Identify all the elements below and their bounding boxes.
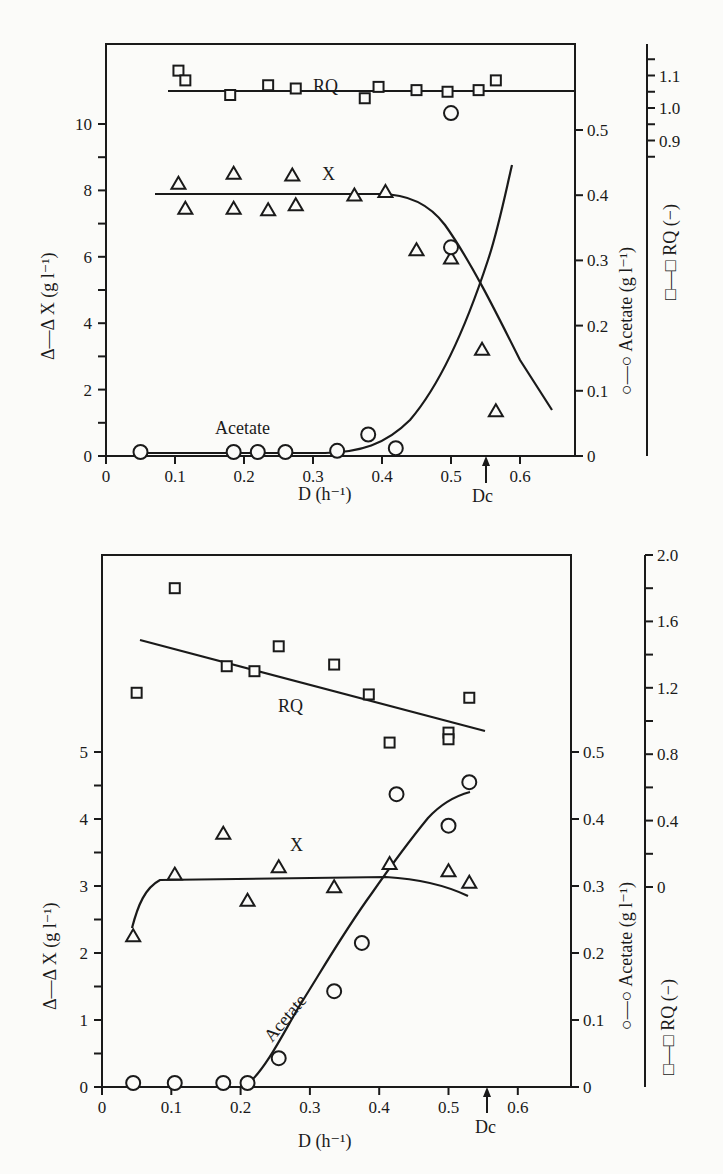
- x-triangle-marker: [489, 404, 503, 416]
- x-triangle-marker: [168, 868, 182, 880]
- acetate-fit-curve: [140, 165, 512, 453]
- rq-square-marker: [274, 641, 284, 651]
- rq-tick-label: 1.2: [657, 679, 678, 698]
- x-triangle-marker: [285, 168, 299, 180]
- x-fit-curve: [155, 194, 552, 410]
- rq-tick-label: 0.9: [659, 132, 680, 151]
- rq-square-marker: [385, 738, 395, 748]
- x-triangle-marker: [241, 894, 255, 906]
- top-axis-ticks: 00.10.20.30.40.50.6024681000.10.20.30.40…: [75, 59, 680, 486]
- x-triangle-marker: [410, 243, 424, 255]
- rq-square-marker: [291, 84, 301, 94]
- top-fit-curves: [140, 91, 575, 453]
- acetate-circle-marker: [330, 444, 344, 458]
- x-triangle-marker: [178, 202, 192, 214]
- y-tick-label: 4: [84, 314, 93, 333]
- x-triangle-marker: [227, 167, 241, 179]
- x-tick-label: 0: [102, 467, 111, 486]
- x-triangle-marker: [475, 343, 489, 355]
- annotation-acetate: Acetate: [215, 418, 270, 438]
- rq-square-marker: [491, 75, 501, 85]
- acetate-tick-label: 0: [587, 447, 596, 466]
- acetate-circle-marker: [278, 445, 292, 459]
- x-tick-label: 0.5: [440, 467, 461, 486]
- acetate-tick-label: 0.2: [583, 944, 604, 963]
- bottom-chart: 00.10.20.30.40.50.601234500.10.20.30.40.…: [40, 546, 679, 1152]
- rq-square-marker: [263, 80, 273, 90]
- y-tick-label: 8: [84, 181, 93, 200]
- rq-square-marker: [412, 85, 422, 95]
- acetate-tick-label: 0.2: [587, 317, 608, 336]
- rq-fit-line: [140, 640, 485, 731]
- annotation-rq: RQ: [313, 76, 338, 96]
- acetate-circle-marker: [134, 445, 148, 459]
- acetate-tick-label: 0.3: [583, 877, 604, 896]
- bottom-axis-ticks: 00.10.20.30.40.50.601234500.10.20.30.40.…: [80, 546, 679, 1117]
- x-triangle-marker: [462, 876, 476, 888]
- top-acetate-axis-title: ○—○ Acetate (g l⁻¹): [616, 247, 637, 395]
- rq-tick-label: 1.6: [657, 612, 678, 631]
- annotation-x: X: [290, 835, 303, 855]
- rq-tick-label: 1.1: [659, 67, 680, 86]
- x-tick-label: 0.4: [371, 467, 393, 486]
- acetate-circle-marker: [390, 787, 404, 801]
- rq-tick-label: 0.4: [657, 812, 679, 831]
- x-triangle-marker: [289, 198, 303, 210]
- acetate-tick-label: 0.3: [587, 251, 608, 270]
- acetate-circle-marker: [126, 1076, 140, 1090]
- rq-square-marker: [360, 93, 370, 103]
- x-tick-label: 0.4: [369, 1098, 391, 1117]
- rq-square-marker: [444, 734, 454, 744]
- rq-tick-label: 0.8: [657, 745, 678, 764]
- top-data-points: [134, 66, 503, 459]
- bottom-fit-curves: [132, 640, 485, 1082]
- acetate-circle-marker: [251, 445, 265, 459]
- x-tick-label: 0.2: [233, 467, 254, 486]
- top-left-axis-title: Δ—Δ X (g l⁻¹): [38, 252, 59, 360]
- rq-square-marker: [173, 66, 183, 76]
- y-tick-label: 0: [84, 447, 93, 466]
- y-tick-label: 1: [80, 1011, 89, 1030]
- dc-arrowhead-icon: [482, 456, 490, 466]
- acetate-circle-marker: [227, 445, 241, 459]
- x-triangle-marker: [327, 880, 341, 892]
- acetate-circle-marker: [444, 240, 458, 254]
- bottom-x-axis-title: D (h⁻¹): [298, 1131, 351, 1152]
- y-tick-label: 10: [75, 115, 92, 134]
- annotation-x: X: [322, 164, 335, 184]
- annotation-acetate: Acetate: [260, 991, 311, 1046]
- acetate-circle-marker: [444, 106, 458, 120]
- rq-square-marker: [249, 666, 259, 676]
- acetate-circle-marker: [168, 1076, 182, 1090]
- acetate-circle-marker: [272, 1051, 286, 1065]
- x-tick-label: 0.6: [509, 467, 530, 486]
- rq-square-marker: [329, 660, 339, 670]
- x-triangle-marker: [442, 864, 456, 876]
- acetate-tick-label: 0.1: [587, 382, 608, 401]
- x-fit-curve: [132, 877, 468, 928]
- x-tick-label: 0.6: [507, 1098, 528, 1117]
- x-triangle-marker: [378, 185, 392, 197]
- dc-label: Dc: [475, 1117, 496, 1137]
- top-rq-axis-title: □—□ RQ (−): [660, 204, 681, 300]
- bottom-acetate-axis-title: ○—○ Acetate (g l⁻¹): [616, 882, 637, 1030]
- x-tick-label: 0.3: [299, 1098, 320, 1117]
- x-triangle-marker: [126, 929, 140, 941]
- rq-square-marker: [443, 87, 453, 97]
- dc-arrowhead-icon: [483, 1087, 491, 1097]
- top-plot-frame: [106, 44, 575, 456]
- acetate-tick-label: 0.1: [583, 1011, 604, 1030]
- y-tick-label: 5: [80, 743, 89, 762]
- acetate-tick-label: 0.4: [587, 186, 609, 205]
- x-tick-label: 0: [98, 1098, 107, 1117]
- rq-square-marker: [374, 82, 384, 92]
- rq-square-marker: [364, 689, 374, 699]
- x-triangle-marker: [272, 860, 286, 872]
- x-triangle-marker: [171, 177, 185, 189]
- y-tick-label: 6: [84, 248, 93, 267]
- acetate-tick-label: 0: [583, 1078, 592, 1097]
- y-tick-label: 2: [84, 381, 93, 400]
- x-tick-label: 0.2: [230, 1098, 251, 1117]
- x-triangle-marker: [216, 827, 230, 839]
- acetate-circle-marker: [442, 819, 456, 833]
